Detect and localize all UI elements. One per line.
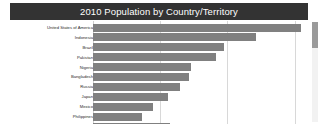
bar-category-label: Japan: [13, 92, 93, 101]
bar-track: [93, 72, 308, 81]
bar-value[interactable]: [93, 103, 153, 111]
chart-plot-area: United States of America Indonesia Brazi…: [10, 21, 308, 124]
scrollbar-thumb[interactable]: [312, 22, 318, 48]
bar-value[interactable]: [93, 33, 256, 41]
population-bar-chart-widget: 2010 Population by Country/Territory Uni…: [0, 0, 319, 124]
bar-track: [93, 53, 308, 62]
page-title: 2010 Population by Country/Territory: [80, 6, 238, 17]
bar-category-label: Brazil: [13, 43, 93, 52]
bar-track: [93, 82, 308, 91]
bar-category-label: Russia: [13, 82, 93, 91]
bar-track: [93, 33, 308, 42]
bar-track: [93, 23, 308, 32]
table-row[interactable]: Nigeria: [10, 63, 308, 72]
bar-track: [93, 92, 308, 101]
bar-row-list: United States of America Indonesia Brazi…: [10, 23, 308, 124]
table-row[interactable]: United States of America: [10, 23, 308, 32]
bar-value[interactable]: [93, 113, 142, 121]
table-row[interactable]: Bangladesh: [10, 72, 308, 81]
bar-value-partial[interactable]: [93, 123, 170, 125]
bar-value[interactable]: [93, 24, 301, 32]
vertical-scrollbar[interactable]: [312, 22, 318, 122]
bar-value[interactable]: [93, 83, 180, 91]
table-row[interactable]: Philippines: [10, 112, 308, 121]
bar-value[interactable]: [93, 63, 191, 71]
bar-category-label: Indonesia: [13, 33, 93, 42]
bar-category-label: Bangladesh: [13, 72, 93, 81]
bar-value[interactable]: [93, 53, 216, 61]
bar-track: [93, 112, 308, 121]
bar-value[interactable]: [93, 43, 224, 51]
bar-category-label: Mexico: [13, 102, 93, 111]
bar-track: [93, 122, 308, 124]
bar-track: [93, 102, 308, 111]
table-row[interactable]: Indonesia: [10, 33, 308, 42]
bar-category-label: Philippines: [13, 112, 93, 121]
table-row[interactable]: Russia: [10, 82, 308, 91]
bar-value[interactable]: [93, 93, 168, 101]
table-row[interactable]: Mexico: [10, 102, 308, 111]
table-row[interactable]: Japan: [10, 92, 308, 101]
table-row[interactable]: Brazil: [10, 43, 308, 52]
bar-category-label: United States of America: [13, 23, 93, 32]
bar-track: [93, 63, 308, 72]
bar-category-label: Nigeria: [13, 63, 93, 72]
bar-category-label: Pakistan: [13, 53, 93, 62]
bar-value[interactable]: [93, 73, 189, 81]
table-row[interactable]: Pakistan: [10, 53, 308, 62]
bar-track: [93, 43, 308, 52]
table-row-partial[interactable]: [10, 122, 308, 124]
chart-title-bar: 2010 Population by Country/Territory: [10, 3, 308, 20]
